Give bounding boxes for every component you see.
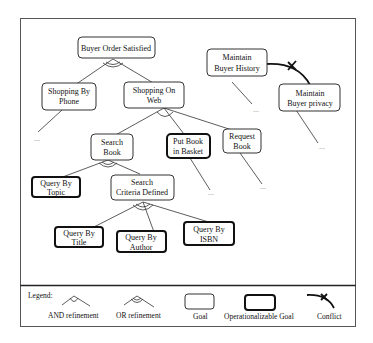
node-buyer-order-satisfied[interactable]: Buyer Order Satisfied <box>78 37 155 58</box>
conflict-legend-icon <box>307 294 334 308</box>
svg-text:Shopping By: Shopping By <box>48 87 90 96</box>
svg-text:Query By: Query By <box>193 225 224 234</box>
node-query-by-title[interactable]: Query By Title <box>55 227 103 247</box>
svg-text:Maintain: Maintain <box>296 89 325 98</box>
svg-text:in Basket: in Basket <box>173 147 204 156</box>
svg-text:Buyer History: Buyer History <box>214 64 260 73</box>
svg-text:...: ... <box>260 182 266 191</box>
node-put-book-in-basket[interactable]: Put Book in Basket <box>167 134 210 158</box>
conflict-link <box>266 61 310 85</box>
legend-or-refinement: OR refinement <box>116 311 162 320</box>
legend-title: Legend: <box>28 291 53 300</box>
svg-text:Web: Web <box>147 96 161 105</box>
svg-text:Maintain: Maintain <box>223 53 252 62</box>
svg-text:Shopping On: Shopping On <box>133 86 175 95</box>
svg-text:Query By: Query By <box>40 179 71 188</box>
svg-text:...: ... <box>34 134 40 143</box>
svg-text:Phone: Phone <box>59 97 79 106</box>
and-refinement-icon <box>62 296 90 306</box>
or-refinement-icon <box>124 296 154 307</box>
svg-text:Buyer privacy: Buyer privacy <box>287 99 333 108</box>
node-query-by-topic[interactable]: Query By Topic <box>32 177 80 197</box>
node-shopping-on-web[interactable]: Shopping On Web <box>124 82 184 108</box>
svg-text:Criteria Defined: Criteria Defined <box>116 188 168 197</box>
svg-text:Put Book: Put Book <box>173 137 203 146</box>
node-maintain-buyer-history[interactable]: Maintain Buyer History <box>207 49 267 76</box>
svg-text:Request: Request <box>229 132 256 141</box>
goal-legend-icon <box>185 294 214 309</box>
svg-text:Search: Search <box>101 138 123 147</box>
svg-text:Search: Search <box>131 178 153 187</box>
operationalizable-goal-legend-icon <box>245 295 275 310</box>
svg-text:Book: Book <box>103 148 120 157</box>
legend-operationalizable-goal: Operationalizable Goal <box>224 312 294 321</box>
svg-text:ISBN: ISBN <box>200 235 218 244</box>
svg-text:...: ... <box>319 142 325 151</box>
legend: Legend: AND refinement OR refinement Goa… <box>28 291 342 321</box>
node-search-book[interactable]: Search Book <box>91 134 133 160</box>
svg-text:...: ... <box>253 105 259 114</box>
svg-text:Query By: Query By <box>63 229 94 238</box>
svg-text:Title: Title <box>72 238 87 247</box>
node-request-book[interactable]: Request Book <box>223 129 261 153</box>
svg-text:Author: Author <box>130 243 153 252</box>
node-maintain-buyer-privacy[interactable]: Maintain Buyer privacy <box>279 84 340 111</box>
legend-goal: Goal <box>193 312 208 321</box>
svg-text:...: ... <box>208 188 214 197</box>
legend-conflict: Conflict <box>317 312 342 321</box>
diagram-frame <box>21 19 356 327</box>
svg-text:Book: Book <box>233 142 250 151</box>
node-search-criteria-defined[interactable]: Search Criteria Defined <box>111 175 174 200</box>
svg-text:Topic: Topic <box>47 188 66 197</box>
node-shopping-by-phone[interactable]: Shopping By Phone <box>42 83 96 110</box>
goal-diagram: ... ... ... ... ... Buyer Order Satisfie… <box>0 0 373 343</box>
svg-text:Query By: Query By <box>125 233 156 242</box>
legend-and-refinement: AND refinement <box>48 311 100 320</box>
node-query-by-author[interactable]: Query By Author <box>117 231 166 252</box>
svg-text:Buyer Order Satisfied: Buyer Order Satisfied <box>81 44 151 53</box>
node-query-by-isbn[interactable]: Query By ISBN <box>184 222 234 245</box>
